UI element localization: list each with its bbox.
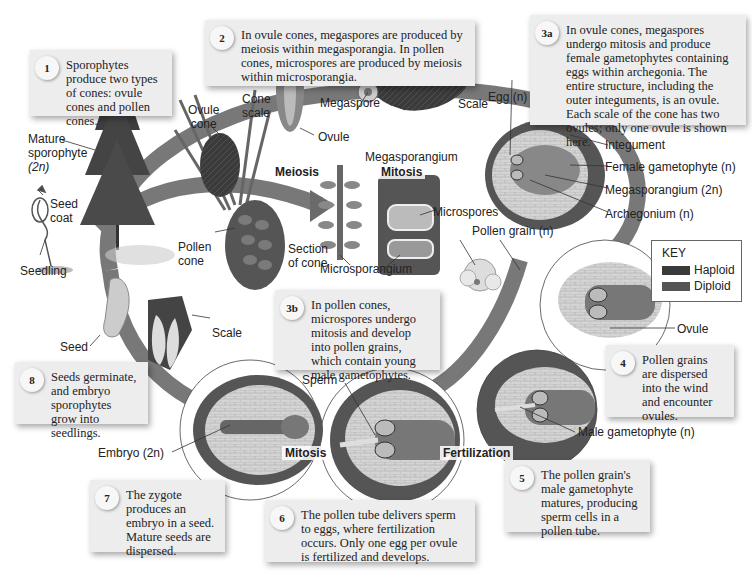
step-2-callout: 2 In ovule cones, megaspores are produce… (205, 20, 475, 86)
step-3b-callout: 3b In pollen cones, microspores undergo … (275, 290, 440, 370)
step-5-callout: 5 The pollen grain's male gametophyte ma… (505, 460, 650, 532)
stage-mitosis-bottom: Mitosis (282, 446, 329, 460)
step-5-badge: 5 (510, 466, 534, 490)
step-1-callout: 1 Sporophytes produce two types of cones… (30, 50, 172, 116)
label-sperm: Sperm (302, 373, 337, 387)
label-ovule-cone: Ovulecone (188, 103, 219, 131)
step-3a-badge: 3a (535, 21, 559, 45)
step-4-callout: 4 Pollen grains are dispersed into the w… (606, 345, 734, 417)
legend-key: KEY Haploid Diploid (651, 240, 742, 302)
microsporangium-illustration (378, 175, 440, 275)
label-pollen-grain: Pollen grain (n) (472, 224, 553, 238)
step-7-text: The zygote produces an embryo in a seed.… (126, 488, 214, 558)
step-5-text: The pollen grain's male gametophyte matu… (541, 468, 638, 538)
step-1-badge: 1 (35, 56, 59, 80)
stage-fertilization: Fertilization (440, 446, 513, 460)
fertilization-ovule-illustration (320, 368, 464, 512)
pine-life-cycle-diagram: 1 Sporophytes produce two types of cones… (0, 0, 752, 575)
label-integument: Integument (605, 138, 665, 152)
pollen-grain-illustration (460, 259, 501, 291)
step-6-badge: 6 (270, 506, 294, 530)
label-scale-bottom: Scale (212, 326, 242, 340)
label-seedling: Seedling (20, 264, 67, 278)
step-7-callout: 7 The zygote produces an embryo in a see… (90, 480, 225, 552)
step-3a-callout: 3a In ovule cones, megaspores undergo mi… (530, 15, 746, 125)
step-2-text: In ovule cones, megaspores are produced … (241, 28, 463, 84)
label-megaspore: Megaspore (320, 96, 380, 110)
label-embryo: Embryo (2n) (98, 446, 164, 460)
key-item-diploid: Diploid (662, 279, 731, 293)
step-4-text: Pollen grains are dispersed into the win… (642, 353, 712, 423)
step-2-badge: 2 (210, 26, 234, 50)
haploid-swatch (662, 266, 690, 275)
label-ovule-top: Ovule (318, 130, 349, 144)
label-seed: Seed (60, 340, 88, 354)
step-8-callout: 8 Seeds germinate, and embryo sporophyte… (15, 362, 148, 424)
label-mature-sporophyte: Mature sporophyte (2n) (28, 132, 87, 174)
label-microspores: Microspores (433, 205, 498, 219)
key-title: KEY (662, 246, 686, 260)
label-megasporangium: Megasporangium (365, 150, 458, 164)
label-male-gametophyte: Male gametophyte (n) (578, 425, 695, 439)
step-6-text: The pollen tube delivers sperm to eggs, … (301, 508, 457, 564)
label-female-gametophyte: Female gametophyte (n) (605, 160, 736, 174)
label-scale-top: Scale (458, 97, 488, 111)
key-item-haploid: Haploid (662, 263, 735, 277)
step-3b-text: In pollen cones, microspores undergo mit… (311, 298, 416, 382)
step-7-badge: 7 (95, 486, 119, 510)
label-archegonium: Archegonium (n) (605, 207, 694, 221)
pollen-cone-illustration (225, 200, 285, 290)
step-3b-badge: 3b (280, 296, 304, 320)
stage-meiosis: Meiosis (272, 165, 322, 179)
label-microsporangium: Microsporangium (320, 262, 412, 276)
label-ovule-right: Ovule (677, 322, 708, 336)
stage-mitosis-top: Mitosis (378, 165, 425, 179)
label-seed-coat: Seedcoat (50, 197, 78, 225)
label-egg: Egg (n) (488, 90, 527, 104)
label-pollen-cone: Pollencone (178, 240, 211, 268)
label-megasporangium-2n: Megasporangium (2n) (605, 183, 722, 197)
step-8-badge: 8 (20, 368, 44, 392)
step-4-badge: 4 (611, 351, 635, 375)
label-cone-scale: Conescale (242, 92, 271, 120)
step-6-callout: 6 The pollen tube delivers sperm to eggs… (265, 500, 475, 562)
diploid-swatch (662, 282, 690, 291)
step-3a-text: In ovule cones, megaspores undergo mitos… (566, 23, 728, 149)
